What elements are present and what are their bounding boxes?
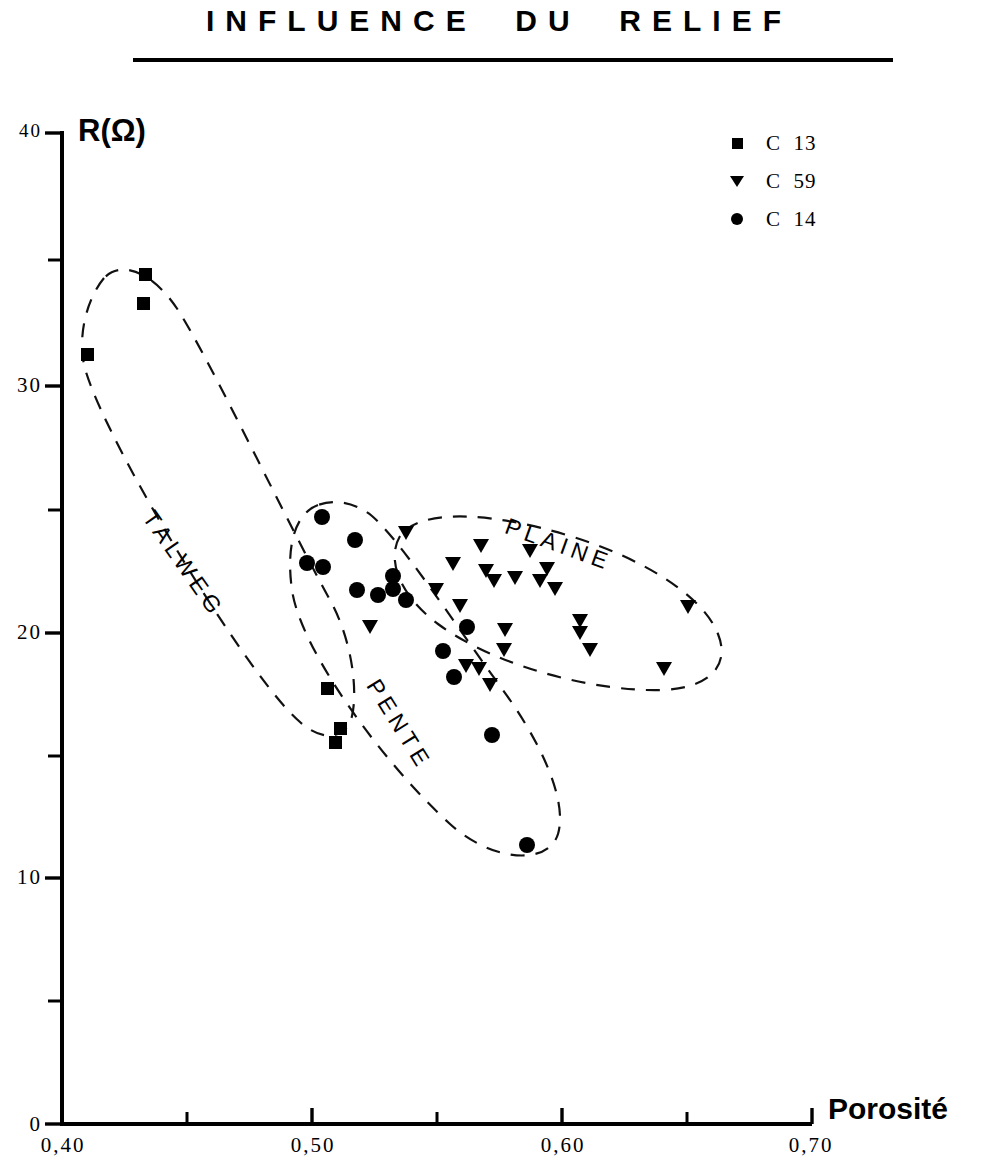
axis-lines xyxy=(62,131,812,1124)
figure-root: INFLUENCE DU RELIEF xyxy=(0,0,998,1169)
square-marker-icon xyxy=(722,138,752,149)
y-tick-label-20: 20 xyxy=(0,620,42,645)
x-axis-title: Porosité xyxy=(828,1092,948,1126)
legend-item-c13: C 13 xyxy=(722,124,817,162)
pente-hull xyxy=(290,502,560,855)
y-tick-label-30: 30 xyxy=(0,373,42,398)
circle-marker-icon xyxy=(722,213,752,225)
plot-canvas xyxy=(0,0,998,1169)
x-tick-label-060: 0,60 xyxy=(528,1133,598,1158)
x-tick-label-050: 0,50 xyxy=(278,1133,348,1158)
legend-item-c59: C 59 xyxy=(722,162,817,200)
triangle-down-marker-icon xyxy=(722,176,752,187)
legend-label-c59: C 59 xyxy=(766,169,817,194)
y-axis-title: R(Ω) xyxy=(78,113,146,149)
x-tick-label-040: 0,40 xyxy=(28,1133,98,1158)
axis-frame xyxy=(62,131,812,1124)
talweg-hull xyxy=(82,270,354,736)
series-c14-points xyxy=(299,509,535,853)
y-axis-ticks xyxy=(45,133,62,1124)
legend-label-c14: C 14 xyxy=(766,207,817,232)
legend-label-c13: C 13 xyxy=(766,131,817,156)
legend: C 13 C 59 C 14 xyxy=(722,124,817,238)
y-tick-label-40: 40 xyxy=(0,120,42,142)
legend-item-c14: C 14 xyxy=(722,200,817,238)
series-c13-points xyxy=(81,268,347,749)
series-c59-points xyxy=(362,526,696,692)
x-axis-ticks xyxy=(62,1108,812,1124)
x-tick-label-070: 0,70 xyxy=(776,1133,846,1158)
y-tick-label-10: 10 xyxy=(0,865,42,890)
